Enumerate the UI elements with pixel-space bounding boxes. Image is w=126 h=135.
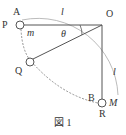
reference-arc [22, 18, 118, 95]
string-oq [33, 25, 102, 59]
label-m: m [27, 27, 34, 38]
ball-r [98, 99, 106, 107]
dashed-trajectory [21, 29, 98, 103]
label-r: R [99, 108, 106, 119]
label-p: P [2, 19, 8, 30]
ball-p [16, 21, 24, 29]
label-b: B [88, 92, 95, 103]
label-q: Q [15, 65, 23, 76]
figure-caption: 図 1 [54, 117, 72, 128]
label-big-m: M [108, 97, 118, 108]
label-l-top: l [61, 6, 64, 17]
label-a: A [13, 6, 21, 17]
pendulum-diagram: P A O Q B R m M θ l l 図 1 [0, 0, 126, 135]
label-o: O [106, 8, 113, 19]
label-theta: θ [61, 28, 66, 39]
ball-q [26, 58, 34, 66]
label-l-right: l [113, 66, 116, 77]
